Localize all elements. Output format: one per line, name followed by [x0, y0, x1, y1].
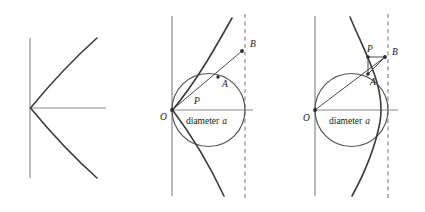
- panel2-diameter-annotation: diametera: [186, 116, 227, 126]
- panel3-diameter-annotation: diametera: [329, 116, 370, 126]
- panel3-diameter-word: diameter: [329, 116, 363, 126]
- panel2-label-O: O: [160, 112, 167, 122]
- panel3-point-B-dot: [383, 55, 387, 59]
- panel3-point-O-dot: [313, 108, 317, 112]
- panel2-diameter-word: diameter: [186, 116, 220, 126]
- geometry-figure-panels: O P A B diametera: [0, 0, 425, 212]
- panel2-label-A: A: [221, 79, 228, 89]
- panel3-label-O: O: [303, 113, 310, 123]
- panel2-label-B: B: [250, 39, 256, 49]
- panel-3: O P A B diametera: [303, 14, 398, 198]
- panel2-diameter-symbol: a: [222, 116, 227, 126]
- panel2-parabola-curve: [173, 18, 233, 196]
- panel3-point-A-dot: [366, 72, 370, 76]
- panel2-point-B-dot: [240, 49, 244, 53]
- figure-canvas: O P A B diametera: [0, 0, 425, 212]
- panel3-point-P-dot: [366, 55, 370, 59]
- panel2-point-O-dot: [170, 108, 174, 112]
- panel-2: O P A B diametera: [160, 14, 256, 198]
- panel3-parabola-curve: [350, 17, 381, 196]
- panel3-label-B: B: [392, 47, 398, 57]
- panel3-label-A: A: [369, 77, 376, 87]
- panel2-point-A-dot: [216, 75, 219, 78]
- panel3-diameter-symbol: a: [365, 116, 370, 126]
- panel-1: [30, 38, 106, 178]
- panel3-label-P: P: [366, 44, 373, 54]
- panel2-label-P: P: [193, 96, 200, 106]
